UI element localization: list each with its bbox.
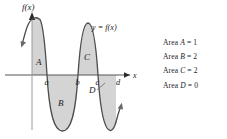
legend-prefix-A: Area xyxy=(163,38,180,47)
region-label-A: A xyxy=(35,57,42,67)
x-tick-label-b: b xyxy=(76,78,80,87)
legend-value-A: 1 xyxy=(193,38,197,47)
legend-row-D: Area D = 0 xyxy=(163,79,225,93)
x-axis-label: x xyxy=(132,71,137,80)
curve-equation-label: y = f(x) xyxy=(91,23,117,32)
area-values-legend: Area A = 1 Area B = 2 Area C = 2 Area D … xyxy=(163,36,225,93)
curve-right-tail xyxy=(116,107,121,122)
x-axis-arrowhead xyxy=(124,72,130,78)
curve-right-arrowhead xyxy=(118,103,124,110)
curve-left-arrowhead xyxy=(21,41,27,47)
x-tick-label-d: d xyxy=(116,78,121,87)
legend-eq-D: = xyxy=(186,81,194,90)
region-label-C: C xyxy=(84,52,91,62)
legend-eq-C: = xyxy=(185,66,193,75)
legend-row-B: Area B = 2 xyxy=(163,50,225,64)
legend-row-A: Area A = 1 xyxy=(163,36,225,50)
legend-value-C: 2 xyxy=(194,66,198,75)
x-tick-label-a: a xyxy=(45,78,49,87)
x-tick-label-c: c xyxy=(96,78,100,87)
legend-value-B: 2 xyxy=(193,52,197,61)
legend-prefix-B: Area xyxy=(163,52,180,61)
legend-prefix-D: Area xyxy=(163,81,180,90)
legend-value-D: 0 xyxy=(194,81,198,90)
legend-prefix-C: Area xyxy=(163,66,180,75)
legend-row-C: Area C = 2 xyxy=(163,64,225,78)
y-axis-label: f(x) xyxy=(22,2,35,12)
region-label-B: B xyxy=(58,98,64,108)
